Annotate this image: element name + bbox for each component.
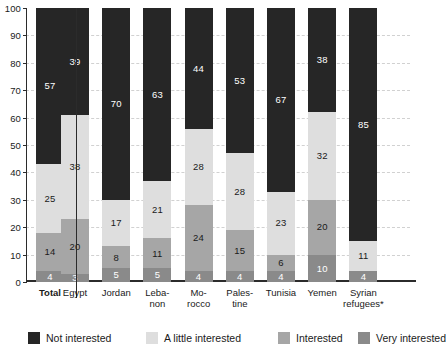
bar-segment[interactable]: 20 bbox=[61, 219, 89, 274]
bar-total[interactable]: 4142557 bbox=[36, 8, 64, 282]
bar-segment[interactable]: 10 bbox=[308, 255, 336, 282]
segment-value-label: 53 bbox=[234, 76, 245, 86]
bar-segment[interactable]: 32 bbox=[308, 112, 336, 200]
bar-segment[interactable]: 14 bbox=[36, 233, 64, 271]
bar-segment[interactable]: 17 bbox=[102, 200, 130, 247]
segment-value-label: 44 bbox=[193, 64, 204, 74]
bar-segment[interactable]: 11 bbox=[143, 238, 171, 268]
legend-label: A little interested bbox=[164, 332, 241, 344]
bar-palestine[interactable]: 4152853 bbox=[226, 8, 254, 282]
segment-value-label: 38 bbox=[70, 162, 81, 172]
bar-segment[interactable]: 15 bbox=[226, 230, 254, 271]
segment-value-label: 6 bbox=[278, 258, 283, 268]
y-tick-label: 20 bbox=[10, 222, 21, 233]
bar-segment[interactable]: 5 bbox=[143, 268, 171, 282]
segment-value-label: 32 bbox=[317, 151, 328, 161]
y-tick-label: 50 bbox=[10, 140, 21, 151]
segment-value-label: 57 bbox=[45, 81, 56, 91]
segment-value-label: 5 bbox=[113, 270, 118, 280]
segment-value-label: 38 bbox=[317, 55, 328, 65]
y-tick-mark bbox=[23, 282, 27, 283]
bar-segment[interactable]: 5 bbox=[102, 268, 130, 282]
bar-lebanon[interactable]: 5112163 bbox=[143, 8, 171, 282]
bar-segment[interactable]: 44 bbox=[185, 8, 213, 129]
x-label-syrian-refugees: Syrianrefugees* bbox=[337, 288, 389, 309]
y-tick-label: 70 bbox=[10, 85, 21, 96]
segment-value-label: 70 bbox=[111, 99, 122, 109]
legend-swatch bbox=[278, 332, 290, 344]
legend-swatch bbox=[28, 332, 40, 344]
y-tick-label: 90 bbox=[10, 30, 21, 41]
bar-segment[interactable]: 11 bbox=[349, 241, 377, 271]
bar-segment[interactable]: 53 bbox=[226, 8, 254, 153]
bar-segment[interactable]: 28 bbox=[226, 153, 254, 230]
segment-value-label: 5 bbox=[155, 270, 160, 280]
bar-segment[interactable]: 63 bbox=[143, 8, 171, 181]
bar-segment[interactable]: 4 bbox=[267, 271, 295, 282]
bar-segment[interactable]: 38 bbox=[308, 8, 336, 112]
bar-segment[interactable]: 39 bbox=[61, 8, 89, 115]
segment-value-label: 4 bbox=[196, 272, 201, 282]
bar-egypt[interactable]: 3203839 bbox=[61, 8, 89, 282]
segment-value-label: 15 bbox=[234, 246, 245, 256]
segment-value-label: 14 bbox=[45, 247, 56, 257]
legend-item-not-interested[interactable]: Not interested bbox=[28, 332, 111, 344]
bar-jordan[interactable]: 581770 bbox=[102, 8, 130, 282]
legend-swatch bbox=[358, 332, 370, 344]
legend-item-very-interested[interactable]: Very interested bbox=[358, 332, 446, 344]
segment-value-label: 20 bbox=[70, 242, 81, 252]
x-label-line: refugees* bbox=[337, 299, 389, 310]
bar-tunisia[interactable]: 462367 bbox=[267, 8, 295, 282]
bar-segment[interactable]: 21 bbox=[143, 181, 171, 239]
segment-value-label: 10 bbox=[317, 264, 328, 274]
x-axis-category-labels: TotalEgyptJordanLeba-nonMo-roccoPales-ti… bbox=[26, 288, 410, 316]
segment-value-label: 4 bbox=[237, 272, 242, 282]
bar-segment[interactable]: 4 bbox=[226, 271, 254, 282]
chart-legend: Not interestedA little interestedInteres… bbox=[28, 329, 420, 347]
bar-segment[interactable]: 25 bbox=[36, 164, 64, 233]
bar-segment[interactable]: 67 bbox=[267, 8, 295, 192]
segment-value-label: 21 bbox=[152, 205, 163, 215]
bar-segment[interactable]: 38 bbox=[61, 115, 89, 219]
total-group-divider bbox=[76, 8, 77, 298]
legend-item-interested[interactable]: Interested bbox=[278, 332, 343, 344]
segment-value-label: 4 bbox=[47, 272, 52, 282]
bar-yemen[interactable]: 10203238 bbox=[308, 8, 336, 282]
bar-segment[interactable]: 3 bbox=[61, 274, 89, 282]
y-tick-label: 30 bbox=[10, 194, 21, 205]
segment-value-label: 25 bbox=[45, 194, 56, 204]
bar-segment[interactable]: 23 bbox=[267, 192, 295, 255]
y-tick-label: 10 bbox=[10, 249, 21, 260]
x-label-line: tine bbox=[214, 299, 266, 310]
segment-value-label: 28 bbox=[193, 162, 204, 172]
plot-area: 0102030405060708090100 41425573203839581… bbox=[26, 8, 410, 282]
bar-syrian-refugees[interactable]: 41185 bbox=[349, 8, 377, 282]
bar-segment[interactable]: 28 bbox=[185, 129, 213, 206]
bar-segment[interactable]: 70 bbox=[102, 8, 130, 200]
segment-value-label: 4 bbox=[278, 272, 283, 282]
bar-morocco[interactable]: 4242844 bbox=[185, 8, 213, 282]
segment-value-label: 28 bbox=[234, 187, 245, 197]
y-tick-label: 80 bbox=[10, 57, 21, 68]
segment-value-label: 24 bbox=[193, 233, 204, 243]
legend-label: Not interested bbox=[46, 332, 111, 344]
bar-segment[interactable]: 4 bbox=[185, 271, 213, 282]
y-tick-label: 100 bbox=[5, 3, 21, 14]
bar-segment[interactable]: 8 bbox=[102, 246, 130, 268]
y-tick-label: 40 bbox=[10, 167, 21, 178]
bar-segment[interactable]: 4 bbox=[36, 271, 64, 282]
bar-series-container: 4142557320383958177051121634242844415285… bbox=[26, 8, 410, 282]
legend-label: Interested bbox=[296, 332, 343, 344]
legend-item-a-little-interested[interactable]: A little interested bbox=[146, 332, 241, 344]
bar-segment[interactable]: 85 bbox=[349, 8, 377, 241]
bar-segment[interactable]: 24 bbox=[185, 205, 213, 271]
segment-value-label: 4 bbox=[361, 272, 366, 282]
segment-value-label: 39 bbox=[70, 57, 81, 67]
bar-segment[interactable]: 4 bbox=[349, 271, 377, 282]
bar-segment[interactable]: 6 bbox=[267, 255, 295, 271]
bar-segment[interactable]: 57 bbox=[36, 8, 64, 164]
legend-label: Very interested bbox=[376, 332, 446, 344]
bar-segment[interactable]: 20 bbox=[308, 200, 336, 255]
segment-value-label: 8 bbox=[113, 253, 118, 263]
